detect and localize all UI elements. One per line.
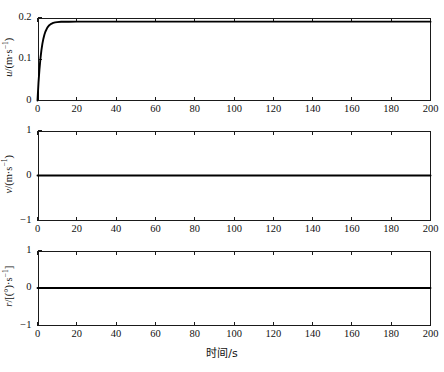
figure-canvas: 00.10.2020406080100120140160180200u/(m·s… — [0, 0, 444, 372]
x-axis-label: 时间/s — [0, 348, 444, 359]
data-curve-layer — [0, 0, 444, 372]
yaw-rate-panel: −101020406080100120140160180200r/[(°)·s−… — [0, 0, 444, 372]
